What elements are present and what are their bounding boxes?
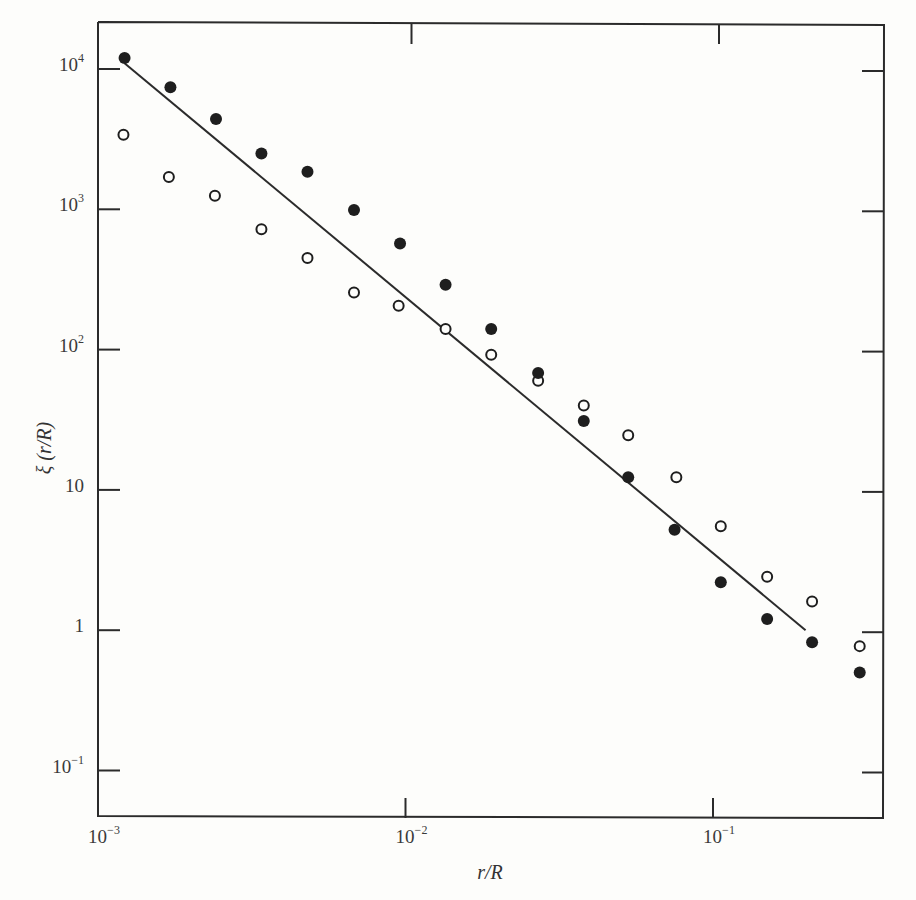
open-data-point [623,430,633,440]
open-data-point [716,521,726,531]
axis-ticks [98,24,884,818]
open-data-point [807,597,817,607]
filled-data-point [210,113,222,125]
filled-data-point [348,204,360,216]
plot-border [98,22,884,818]
filled-data-point [394,238,406,250]
filled-data-point [255,147,267,159]
y-tick-label: 1 [75,615,85,637]
open-circle-series [118,130,864,651]
open-data-point [671,472,681,482]
filled-data-point [622,471,634,483]
filled-data-point [485,323,497,335]
open-data-point [118,130,128,140]
filled-data-point [119,52,131,64]
chart-plot-area [0,0,916,900]
open-data-point [579,400,589,410]
fit-line-segment [125,63,806,630]
y-tick-label: 10−1 [52,756,84,778]
filled-data-point [578,415,590,427]
y-tick-label: 102 [59,335,84,357]
filled-data-point [669,524,681,536]
y-tick-label: 10 [65,475,84,497]
open-data-point [349,288,359,298]
open-data-point [441,324,451,334]
y-axis-title: ξ (r/R) [33,422,56,474]
filled-data-point [761,613,773,625]
filled-data-point [301,166,313,178]
y-tick-label: 104 [59,54,84,76]
filled-data-point [440,279,452,291]
filled-data-point [806,636,818,648]
filled-data-point [532,367,544,379]
x-tick-label: 10−2 [396,826,428,848]
filled-circle-series [119,52,866,679]
open-data-point [210,191,220,201]
x-axis-title: r/R [477,861,503,884]
x-tick-label: 10−1 [703,826,735,848]
open-data-point [486,350,496,360]
y-tick-label: 103 [59,194,84,216]
filled-data-point [715,576,727,588]
plot-frame [98,22,884,818]
x-tick-label: 10−3 [88,826,120,848]
filled-data-point [854,666,866,678]
open-data-point [302,253,312,263]
open-data-point [256,224,266,234]
open-data-point [394,301,404,311]
open-data-point [855,641,865,651]
fit-line [125,63,806,630]
filled-data-point [164,81,176,93]
open-data-point [762,572,772,582]
open-data-point [164,172,174,182]
